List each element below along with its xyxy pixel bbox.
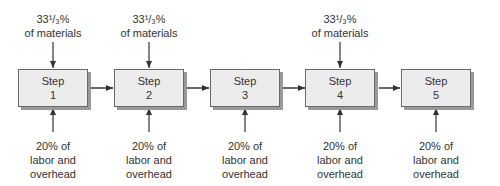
labor-label-step-4: 20% of labor and overhead <box>285 139 395 181</box>
step-4-box: Step 4 <box>305 69 375 107</box>
step-2-label: Step <box>115 74 183 88</box>
step-4-number: 4 <box>306 88 374 102</box>
labor-label-step-2: 20% of labor and overhead <box>94 139 204 181</box>
step-1-box: Step 1 <box>18 69 88 107</box>
step-1-number: 1 <box>19 88 87 102</box>
materials-label-step-2: 33¹/₃% of materials <box>94 12 204 40</box>
labor-label-step-5: 20% of labor and overhead <box>381 139 491 181</box>
step-1-label: Step <box>19 74 87 88</box>
step-5-box: Step 5 <box>401 69 471 107</box>
step-2-number: 2 <box>115 88 183 102</box>
step-2-box: Step 2 <box>114 69 184 107</box>
step-4-label: Step <box>306 74 374 88</box>
step-3-number: 3 <box>211 88 279 102</box>
materials-label-step-4: 33¹/₃% of materials <box>285 12 395 40</box>
labor-label-step-1: 20% of labor and overhead <box>0 139 108 181</box>
labor-label-step-3: 20% of labor and overhead <box>190 139 300 181</box>
step-3-box: Step 3 <box>210 69 280 107</box>
materials-label-step-1: 33¹/₃% of materials <box>0 12 108 40</box>
step-5-label: Step <box>402 74 470 88</box>
step-3-label: Step <box>211 74 279 88</box>
step-5-number: 5 <box>402 88 470 102</box>
